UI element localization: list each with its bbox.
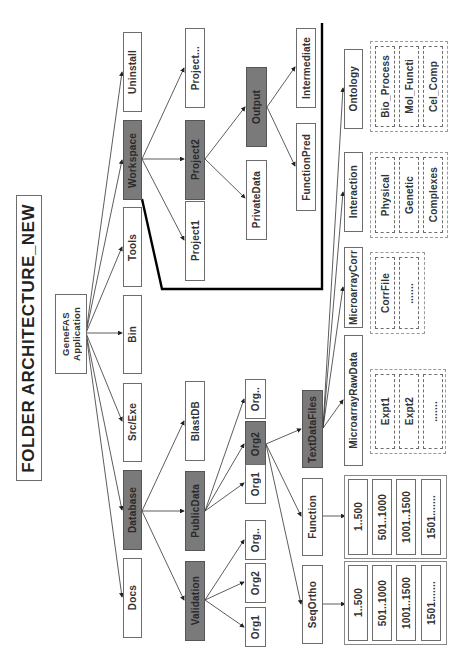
function-range-item: 1501....... [421, 479, 441, 555]
node-label: Interaction [348, 165, 359, 218]
node-label: Expt1 [380, 397, 391, 425]
node-label: BlastDB [190, 401, 201, 441]
node-label: Org1 [250, 472, 261, 496]
node-label: PublicData [190, 484, 201, 538]
node-label: Org.. [250, 528, 261, 552]
node-label: ....... [428, 401, 439, 422]
node-label: Org.. [250, 387, 261, 411]
node-label: CorrFile [380, 273, 391, 313]
node-label: Bio_Process [380, 55, 391, 118]
node-public-org1: Org1 [245, 464, 266, 504]
node-public-data: PublicData [185, 471, 205, 551]
node-src-exe: Src/Exe [123, 383, 142, 462]
workspace-boundary [142, 23, 322, 289]
node-label: Output [251, 90, 262, 124]
seqortho-range-item: 1001..1500 [396, 565, 416, 641]
node-public-org2: Org2 [245, 421, 266, 467]
node-ontology: Ontology [344, 49, 363, 129]
ontology-item: Cel_Comp [423, 46, 443, 127]
node-label: Cel_Comp [428, 61, 439, 112]
node-label: 1..500 [353, 502, 364, 531]
node-interaction: Interaction [344, 152, 363, 232]
node-output: Output [246, 67, 267, 147]
node-label: Mol_Functi [404, 59, 415, 114]
interaction-item: Physical [375, 157, 395, 233]
node-label: 1001..1500 [401, 577, 412, 629]
root-node: GeneFAS Application [55, 294, 87, 374]
node-label: Tools [127, 234, 138, 261]
node-label: Physical [380, 174, 391, 216]
node-text-data-files: TextDataFiles [302, 390, 323, 468]
node-label: Workspace [127, 133, 138, 188]
node-label: MicroarrayRawData [348, 352, 359, 449]
raw-item: Expt1 [375, 374, 395, 449]
node-label: Org1 [250, 615, 261, 639]
node-project1: Project1 [185, 201, 205, 281]
node-database: Database [123, 470, 142, 550]
node-label: PrivateData [251, 171, 262, 228]
node-label: Bin [127, 326, 138, 343]
node-project-more: Project... [185, 28, 205, 108]
function-range-item: 1..500 [348, 479, 368, 555]
function-range-item: 1001..1500 [396, 479, 416, 555]
node-label: Uninstall [127, 50, 138, 94]
node-validation-org-more: Org.. [245, 520, 266, 560]
node-label: Complexes [428, 167, 439, 222]
node-label: Expt2 [404, 397, 415, 425]
node-label: Org2 [250, 432, 261, 456]
node-label: Src/Exe [127, 403, 138, 441]
node-seq-ortho: SeqOrtho [302, 565, 323, 644]
node-microarray-raw-data: MicroarrayRawData [344, 335, 363, 466]
node-workspace: Workspace [123, 120, 142, 200]
node-project2: Project2 [185, 120, 205, 200]
ontology-item: Bio_Process [375, 46, 395, 127]
node-label: 501..1000 [377, 580, 388, 626]
title-text: FOLDER ARCHITECTURE_NEW [19, 204, 39, 473]
node-label: Validation [190, 576, 201, 625]
node-validation: Validation [185, 561, 205, 641]
node-bin: Bin [123, 295, 142, 374]
node-label: 1001..1500 [401, 491, 412, 543]
node-intermediate: Intermediate [296, 28, 316, 108]
node-function: Function [302, 478, 323, 556]
node-label: 1..500 [353, 588, 364, 617]
node-label: Project... [190, 46, 201, 90]
node-tools: Tools [123, 207, 142, 287]
node-label: 1501....... [426, 495, 437, 539]
ontology-item: Mol_Functi [399, 46, 419, 127]
node-label: ....... [404, 283, 415, 304]
node-microarray-corr: MicroarrayCorr [344, 247, 363, 328]
node-label: 1501....... [426, 581, 437, 625]
raw-item: ....... [423, 374, 443, 449]
seqortho-range-item: 1501....... [421, 565, 441, 641]
interaction-item: Genetic [399, 157, 419, 233]
node-label: Project1 [190, 220, 201, 261]
diagram-title: FOLDER ARCHITECTURE_NEW [16, 195, 42, 481]
node-label: Database [127, 487, 138, 533]
node-docs: Docs [123, 558, 142, 638]
node-blastdb: BlastDB [185, 381, 205, 461]
corr-item: ....... [399, 257, 419, 329]
node-label: Docs [127, 585, 138, 610]
node-validation-org2: Org2 [245, 563, 266, 603]
seqortho-range-item: 501..1000 [372, 565, 392, 641]
corr-item: CorrFile [375, 257, 395, 329]
raw-item: Expt2 [399, 374, 419, 449]
node-private-data: PrivateData [246, 160, 267, 240]
node-label: Intermediate [301, 37, 312, 99]
node-label: Ontology [348, 66, 359, 111]
node-label: MicroarrayCorr [348, 250, 359, 325]
node-label: FunctionPred [301, 134, 312, 201]
node-validation-org1: Org1 [245, 607, 266, 647]
node-uninstall: Uninstall [123, 32, 142, 112]
node-label: TextDataFiles [307, 396, 318, 463]
node-label: Genetic [404, 176, 415, 214]
node-function-pred: FunctionPred [296, 123, 316, 211]
root-label: GeneFAS Application [60, 307, 82, 361]
node-label: 501..1000 [377, 494, 388, 540]
node-label: Function [307, 495, 318, 539]
interaction-item: Complexes [423, 157, 443, 233]
seqortho-range-item: 1..500 [348, 565, 368, 641]
node-label: Org2 [250, 571, 261, 595]
function-range-item: 501..1000 [372, 479, 392, 555]
